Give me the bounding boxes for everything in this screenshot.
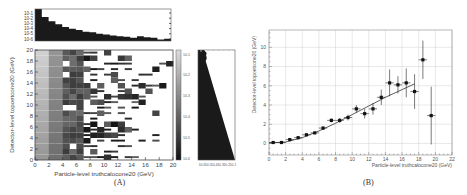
y-tick-label: 12 — [26, 91, 33, 97]
data-point — [305, 133, 308, 136]
colorbar-tick: 10-6 — [183, 157, 190, 161]
x-axis-label: Particle-level truthcalocone20 (GeV) — [372, 162, 453, 168]
data-point — [338, 119, 341, 122]
x-tick-label: 8 — [89, 162, 93, 168]
data-point — [380, 96, 383, 99]
data-point — [371, 107, 374, 110]
heatmap-chart: 0246810121416182002468101214161820Partic… — [0, 0, 240, 195]
data-point — [288, 138, 291, 141]
data-point — [297, 136, 300, 139]
x-axis-label: Particle-level truthcalocone20 (GeV) — [54, 170, 153, 177]
y-tick-label: 20 — [26, 47, 33, 53]
plot-frame — [269, 30, 452, 155]
x-tick-label: 4 — [301, 156, 304, 162]
fit-line — [269, 84, 415, 143]
data-point — [272, 141, 275, 144]
colorbar-tick: 10-1 — [183, 53, 190, 57]
top-histogram-bars — [35, 9, 171, 41]
y-tick-label: 6 — [30, 124, 34, 130]
grid-lines — [269, 30, 452, 155]
x-tick-label: 18 — [156, 162, 163, 168]
data-point — [346, 116, 349, 119]
y-axis-label: Detector-level topoetcone20 (GeV) — [251, 36, 257, 114]
y-tick-label: 2 — [263, 121, 266, 127]
data-point — [396, 83, 399, 86]
y-tick-label: 4 — [263, 102, 266, 108]
heatmap-cells — [35, 50, 173, 160]
colorbar-tick: 10-4 — [183, 115, 190, 119]
x-tick-label: 8 — [334, 156, 337, 162]
x-tick-label: 0 — [268, 156, 271, 162]
x-tick-label: 16 — [142, 162, 149, 168]
caption-b: (B) — [363, 178, 374, 187]
x-tick-label: 10 — [349, 156, 355, 162]
data-point — [388, 81, 391, 84]
x-tick-label: 20 — [170, 162, 177, 168]
y-tick-label: 2 — [30, 146, 34, 152]
x-tick-label: 14 — [128, 162, 135, 168]
y-tick-label: 4 — [30, 135, 34, 141]
panel-a: 0246810121416182002468101214161820Partic… — [0, 0, 240, 195]
right-histogram-bars — [198, 50, 235, 160]
y-axis-label: Detector-level topoetcone20 (GeV) — [8, 57, 15, 153]
top-hist-tick: 10-6 — [24, 37, 34, 42]
data-point — [330, 119, 333, 122]
colorbar-tick: 10-3 — [183, 94, 190, 98]
y-tick-label: 6 — [263, 83, 266, 89]
panel-b: 02468101214161820220246810Particle-level… — [240, 0, 467, 195]
x-tick-label: 2 — [47, 162, 51, 168]
x-tick-label: 6 — [318, 156, 321, 162]
colorbar — [176, 50, 181, 160]
y-tick-label: 18 — [26, 58, 33, 64]
data-point — [421, 58, 424, 61]
x-tick-label: 2 — [284, 156, 287, 162]
x-tick-label: 0 — [33, 162, 37, 168]
x-tick-label: 10 — [101, 162, 108, 168]
caption-a: (A) — [114, 178, 125, 187]
data-point — [313, 131, 316, 134]
profile-scatter-chart: 02468101214161820220246810Particle-level… — [240, 0, 467, 195]
x-tick-label: 6 — [75, 162, 79, 168]
data-point — [430, 114, 433, 117]
colorbar-tick: 10-2 — [183, 73, 190, 77]
y-tick-label: 16 — [26, 69, 33, 75]
y-tick-label: 8 — [30, 113, 34, 119]
y-tick-label: 0 — [263, 140, 266, 146]
data-point — [405, 81, 408, 84]
data-point — [363, 112, 366, 115]
x-tick-label: 12 — [114, 162, 121, 168]
colorbar-tick: 10-5 — [183, 136, 190, 140]
y-tick-label: 14 — [26, 80, 33, 86]
right-hist-tick: 10-1 — [230, 163, 237, 167]
data-point — [280, 141, 283, 144]
data-point — [355, 107, 358, 110]
y-tick-label: 8 — [263, 63, 266, 69]
data-point — [321, 126, 324, 129]
data-point — [413, 90, 416, 93]
y-tick-label: 10 — [260, 44, 266, 50]
y-tick-label: 10 — [26, 102, 33, 108]
x-tick-label: 4 — [61, 162, 65, 168]
